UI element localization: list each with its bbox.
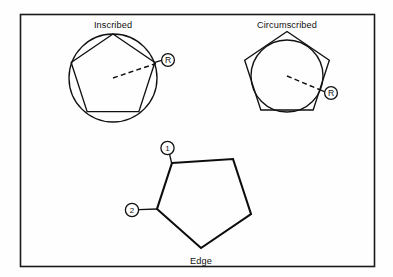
panel-inscribed: Inscribed R	[69, 20, 174, 122]
edge-pentagon	[157, 159, 251, 248]
circumscribed-pentagon	[245, 32, 330, 110]
inscribed-radius-marker-label: R	[165, 55, 171, 65]
callout-two-leader	[139, 209, 157, 210]
diagram-canvas: Inscribed R Circumscribed R 1	[0, 0, 393, 277]
callout-one-leader	[170, 154, 172, 163]
inscribed-title: Inscribed	[94, 20, 132, 30]
polygon-construction-diagram: Inscribed R Circumscribed R 1	[0, 0, 393, 277]
panel-edge: 1 2 Edge	[125, 141, 251, 266]
circumscribed-title: Circumscribed	[257, 20, 317, 30]
callout-two-label: 2	[130, 206, 135, 215]
diagram-frame	[21, 15, 375, 267]
circumscribed-radius-dashed-line	[287, 76, 320, 90]
inscribed-radius-dashed-line	[113, 64, 156, 79]
edge-label: Edge	[190, 256, 212, 266]
callout-one-label: 1	[165, 144, 170, 153]
circumscribed-radius-marker-label: R	[328, 88, 334, 98]
inscribed-radius-leader	[155, 60, 162, 62]
panel-circumscribed: Circumscribed R	[245, 20, 338, 112]
